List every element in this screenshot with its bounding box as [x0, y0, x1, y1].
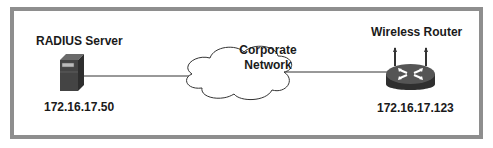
cloud-label-line1: Corporate	[218, 43, 318, 58]
cloud-label-line2: Network	[218, 58, 318, 73]
radius-server-address: 172.16.17.50	[44, 100, 114, 114]
corporate-network-label: Corporate Network	[218, 43, 318, 73]
radius-server-title: RADIUS Server	[36, 34, 123, 48]
wireless-router-title: Wireless Router	[371, 25, 462, 39]
diagram-canvas	[0, 0, 493, 148]
router-icon	[386, 47, 435, 90]
server-icon	[60, 54, 84, 91]
wireless-router-address: 172.16.17.123	[377, 101, 454, 115]
